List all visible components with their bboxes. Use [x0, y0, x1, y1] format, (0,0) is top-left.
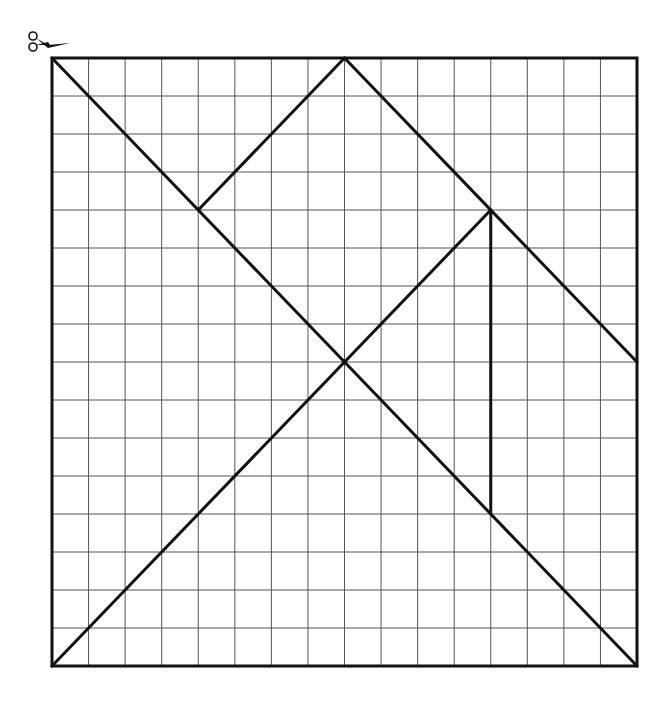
scissors-icon [29, 32, 70, 51]
tangram-diagram [0, 0, 665, 701]
